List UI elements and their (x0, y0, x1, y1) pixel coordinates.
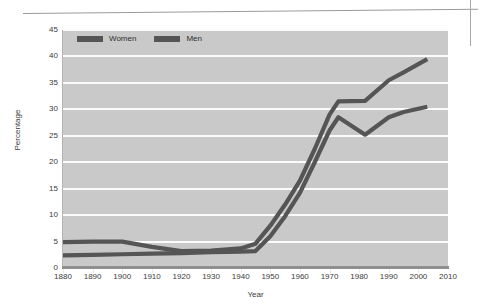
x-axis-tick-mark (181, 269, 182, 273)
legend-label: Men (186, 35, 202, 43)
x-axis-tick-label: 1910 (143, 273, 161, 281)
legend-entry: Women (77, 35, 136, 43)
x-axis-tick-label: 2010 (439, 273, 457, 281)
legend-entry: Men (154, 35, 202, 43)
x-axis-tick-label: 1980 (350, 273, 368, 281)
series-line (63, 107, 427, 256)
x-axis-tick-label: 1970 (321, 273, 339, 281)
y-axis-tick-label: 30 (32, 105, 58, 113)
line-chart-figure: 051015202530354045 Percentage WomenMen 1… (0, 0, 485, 308)
plot-area: WomenMen (63, 30, 448, 268)
x-axis-tick-label: 1920 (173, 273, 191, 281)
x-axis-tick-mark (389, 269, 390, 273)
x-axis-tick-labels: 1880189019001910192019301940195019601970… (63, 269, 448, 291)
y-axis-tick-label: 10 (32, 211, 58, 219)
y-axis-tick-label: 40 (32, 52, 58, 60)
legend-label: Women (109, 35, 136, 43)
y-axis-tick-label: 45 (32, 26, 58, 34)
y-axis-tick-label: 15 (32, 185, 58, 193)
y-axis-tick-label: 35 (32, 79, 58, 87)
x-axis-tick-mark (211, 269, 212, 273)
y-axis-tick-label: 25 (32, 132, 58, 140)
x-axis-tick-label: 1990 (380, 273, 398, 281)
x-axis-tick-mark (330, 269, 331, 273)
series-container (63, 30, 448, 268)
x-axis-tick-label: 1880 (54, 273, 72, 281)
y-axis-tick-label: 20 (32, 158, 58, 166)
x-axis-title: Year (63, 291, 448, 299)
x-axis-tick-label: 1950 (261, 273, 279, 281)
x-axis-tick-label: 1900 (113, 273, 131, 281)
x-axis-tick-mark (241, 269, 242, 273)
x-axis-tick-mark (122, 269, 123, 273)
legend-swatch (154, 36, 180, 42)
chart-legend: WomenMen (77, 32, 202, 46)
y-axis-tick-label: 5 (32, 238, 58, 246)
x-axis-tick-mark (270, 269, 271, 273)
x-axis-tick-mark (300, 269, 301, 273)
x-axis-tick-mark (93, 269, 94, 273)
x-axis-tick-label: 1930 (202, 273, 220, 281)
x-axis-tick-mark (63, 269, 64, 273)
legend-swatch (77, 36, 103, 42)
y-axis-tick-label: 0 (32, 264, 58, 272)
x-axis-tick-mark (418, 269, 419, 273)
x-axis-tick-label: 1890 (84, 273, 102, 281)
x-axis-tick-label: 1940 (232, 273, 250, 281)
y-axis-title: Percentage (14, 90, 22, 170)
x-axis-tick-label: 1960 (291, 273, 309, 281)
x-axis-tick-mark (152, 269, 153, 273)
y-axis-tick-labels: 051015202530354045 (28, 30, 58, 268)
series-line (63, 59, 427, 251)
x-axis-tick-mark (359, 269, 360, 273)
x-axis-tick-label: 2000 (409, 273, 427, 281)
